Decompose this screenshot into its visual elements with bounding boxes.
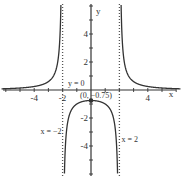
y-axis-label: y <box>96 6 101 16</box>
y-tick-label: -2 <box>81 113 89 123</box>
y-tick-label: 2 <box>84 57 89 67</box>
curve-right-branch <box>121 5 180 89</box>
x-axis-label: x <box>169 89 174 99</box>
point-label: (0, −0.75) <box>80 91 112 100</box>
asymptote-label-horizontal: y = 0 <box>68 79 85 88</box>
x-tick-label: -4 <box>30 93 38 103</box>
curve-left-branch <box>2 5 61 89</box>
asymptote-label-right: x = 2 <box>121 135 138 144</box>
chart: -4-2442-2-4xyx = −2x = 2y = 0(0, −0.75) <box>0 0 181 179</box>
y-tick-label: 4 <box>84 29 89 39</box>
y-tick-label: -4 <box>81 141 89 151</box>
x-tick-label: -2 <box>59 93 67 103</box>
x-tick-label: 4 <box>146 93 151 103</box>
asymptote-label-left: x = −2 <box>41 127 62 136</box>
